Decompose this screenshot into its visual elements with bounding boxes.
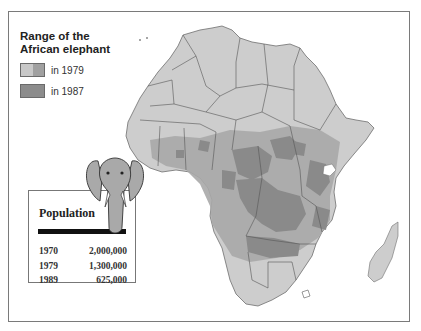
map-legend: Range of the African elephant in 1979 in…: [20, 30, 110, 98]
legend-title: Range of the African elephant: [20, 30, 110, 56]
elephant-icon: [84, 155, 146, 235]
legend-title-line2: African elephant: [20, 43, 110, 56]
legend-title-line1: Range of the: [20, 30, 110, 43]
island: [139, 39, 141, 41]
legend-item-1979: in 1979: [20, 63, 110, 77]
swatch-1979: [20, 63, 45, 77]
population-value: 625,000: [96, 275, 127, 285]
population-value: 2,000,000: [89, 246, 127, 256]
lesotho: [302, 290, 310, 298]
island: [146, 37, 148, 39]
legend-label-1987: in 1987: [51, 86, 84, 97]
swatch-1987: [20, 84, 45, 98]
population-year: 1979: [39, 261, 58, 271]
population-year: 1989: [39, 275, 58, 285]
madagascar: [368, 222, 398, 282]
population-year: 1970: [39, 246, 58, 256]
population-value: 1,300,000: [89, 261, 127, 271]
legend-item-1987: in 1987: [20, 84, 110, 98]
legend-label-1979: in 1979: [51, 65, 84, 76]
